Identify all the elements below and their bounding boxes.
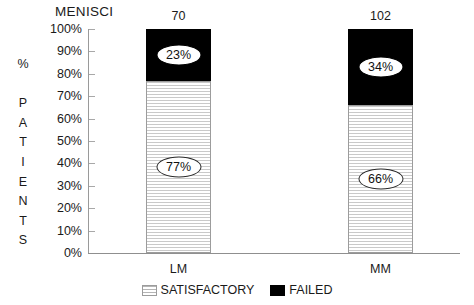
y-axis-tick-mark bbox=[89, 119, 95, 120]
y-axis-tick-label: 20% bbox=[38, 201, 82, 215]
y-axis-label-char: P bbox=[19, 94, 27, 114]
y-axis-label-char: T bbox=[19, 212, 27, 232]
y-axis-tick-mark bbox=[89, 208, 95, 209]
legend-label: SATISFACTORY bbox=[161, 283, 255, 297]
y-axis-tick-label: 0% bbox=[38, 246, 82, 260]
y-axis-tick-label: 50% bbox=[38, 134, 82, 148]
bar-segment-failed[interactable]: 34% bbox=[348, 29, 413, 105]
bar-total-label: 70 bbox=[172, 9, 186, 23]
y-axis-tick-mark bbox=[89, 96, 95, 97]
y-axis-tick-mark bbox=[89, 186, 95, 187]
y-axis-label: %PATIENTS bbox=[14, 55, 32, 251]
bar-column[interactable]: 77%23%70LM bbox=[146, 29, 211, 253]
y-axis-tick-mark bbox=[89, 74, 95, 75]
y-axis-tick-mark bbox=[89, 231, 95, 232]
hatched-swatch bbox=[142, 285, 157, 296]
bar-stack: 66%34% bbox=[348, 29, 413, 253]
segment-value-label: 34% bbox=[358, 57, 403, 78]
y-axis-tick-label: 40% bbox=[38, 156, 82, 170]
x-axis-line bbox=[88, 253, 460, 254]
y-axis-tick-label: 30% bbox=[38, 179, 82, 193]
segment-value-label: 66% bbox=[358, 169, 403, 190]
y-axis-tick-label: 10% bbox=[38, 224, 82, 238]
bar-segment-satisfactory[interactable]: 77% bbox=[146, 81, 211, 253]
y-axis-tick-label: 80% bbox=[38, 67, 82, 81]
y-axis-label-char: N bbox=[18, 192, 27, 212]
y-axis-tick-label: 100% bbox=[38, 22, 82, 36]
y-axis-label-char: A bbox=[19, 114, 27, 134]
bar-total-label: 102 bbox=[370, 9, 391, 23]
legend-item[interactable]: FAILED bbox=[270, 283, 332, 297]
y-axis-label-char: I bbox=[21, 153, 24, 173]
bar-segment-satisfactory[interactable]: 66% bbox=[348, 105, 413, 253]
y-axis-label-char: T bbox=[19, 133, 27, 153]
bar-segment-failed[interactable]: 23% bbox=[146, 29, 211, 81]
y-axis-label-char: S bbox=[19, 231, 27, 251]
y-axis-label-char: E bbox=[19, 173, 27, 193]
x-axis-category-label: MM bbox=[370, 262, 391, 276]
chart-legend: SATISFACTORYFAILED bbox=[0, 283, 474, 297]
x-axis-category-label: LM bbox=[170, 262, 187, 276]
plot-area: 77%23%70LM66%34%102MM bbox=[88, 29, 460, 253]
y-axis-tick-mark bbox=[89, 141, 95, 142]
chart-container: MENISCI %PATIENTS 100%90%80%70%60%50%40%… bbox=[0, 0, 474, 305]
y-axis-tick-label: 70% bbox=[38, 89, 82, 103]
black-swatch bbox=[270, 285, 285, 296]
y-axis-label-char: % bbox=[17, 55, 28, 75]
legend-item[interactable]: SATISFACTORY bbox=[142, 283, 255, 297]
y-axis-tick-mark bbox=[89, 163, 95, 164]
y-axis-tick-mark bbox=[89, 29, 95, 30]
segment-value-label: 77% bbox=[156, 156, 201, 177]
y-axis-tick-mark bbox=[89, 51, 95, 52]
legend-label: FAILED bbox=[289, 283, 332, 297]
y-axis-tick-labels: 100%90%80%70%60%50%40%30%20%10%0% bbox=[36, 0, 82, 305]
bar-stack: 77%23% bbox=[146, 29, 211, 253]
bar-column[interactable]: 66%34%102MM bbox=[348, 29, 413, 253]
y-axis-tick-label: 90% bbox=[38, 44, 82, 58]
segment-value-label: 23% bbox=[156, 44, 201, 65]
y-axis-tick-label: 60% bbox=[38, 112, 82, 126]
